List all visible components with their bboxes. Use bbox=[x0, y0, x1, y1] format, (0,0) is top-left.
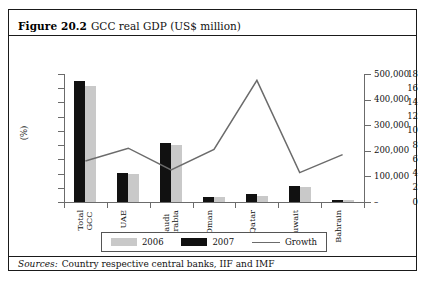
x-tick-mark bbox=[321, 202, 322, 208]
legend-swatch-2006-icon bbox=[111, 238, 137, 246]
source-label: Sources: bbox=[18, 259, 58, 269]
left-tick-mark bbox=[58, 74, 65, 75]
left-tick-mark bbox=[58, 131, 65, 132]
category-label-total-gcc: Total GCC bbox=[76, 210, 94, 231]
left-tick-mark bbox=[58, 159, 65, 160]
bar-2007-qatar bbox=[246, 194, 257, 202]
right-tick-label: 300,000 bbox=[374, 120, 409, 130]
source-value: Country respective central banks, IIF an… bbox=[62, 259, 275, 269]
left-tick-mark bbox=[58, 102, 65, 103]
right-tick-label: 500,000 bbox=[374, 69, 409, 79]
chart-legend: 2006 2007 Growth bbox=[101, 232, 327, 252]
figure-number: Figure 20.2 bbox=[18, 20, 87, 32]
legend-label-2006: 2006 bbox=[142, 237, 164, 247]
x-tick-mark bbox=[235, 202, 236, 208]
x-tick-mark bbox=[278, 202, 279, 208]
right-tick-mark bbox=[364, 202, 371, 203]
left-axis-title: (%) bbox=[19, 126, 29, 141]
x-tick-mark bbox=[193, 202, 194, 208]
legend-item-2006: 2006 bbox=[111, 237, 164, 247]
source-note: Sources:Country respective central banks… bbox=[18, 259, 275, 269]
x-tick-mark bbox=[364, 202, 365, 208]
bar-2006-bahrain bbox=[343, 200, 354, 202]
bar-2007-kuwait bbox=[289, 186, 300, 202]
chart-plot-area: (%) 024681012141618 –100,000200,000300,0… bbox=[9, 36, 418, 241]
legend-label-2007: 2007 bbox=[212, 237, 234, 247]
bar-2006-oman bbox=[214, 197, 225, 202]
left-tick-mark bbox=[58, 145, 65, 146]
left-tick-label: 16 bbox=[374, 83, 418, 93]
category-label-uae: UAE bbox=[119, 210, 128, 229]
x-tick-mark bbox=[150, 202, 151, 208]
legend-swatch-growth-icon bbox=[252, 242, 280, 243]
right-tick-mark bbox=[364, 176, 371, 177]
right-axis-line bbox=[364, 74, 365, 203]
category-label-qatar: Qatar bbox=[248, 210, 257, 234]
bar-2007-uae bbox=[117, 173, 128, 202]
left-tick-label: 2 bbox=[374, 182, 418, 192]
bottom-axis-line bbox=[64, 202, 365, 203]
bar-2007-total-gcc bbox=[74, 81, 85, 202]
x-tick-mark bbox=[64, 202, 65, 208]
left-tick-label: 6 bbox=[374, 154, 418, 164]
figure-title-row: Figure 20.2GCC real GDP (US$ million) bbox=[9, 10, 416, 35]
bar-2006-kuwait bbox=[300, 187, 311, 202]
left-axis-line bbox=[64, 74, 65, 203]
source-divider bbox=[9, 256, 416, 257]
right-tick-mark bbox=[364, 125, 371, 126]
bar-2006-saudi-arabia bbox=[171, 145, 182, 202]
right-tick-mark bbox=[364, 74, 371, 75]
x-tick-mark bbox=[107, 202, 108, 208]
bar-2007-oman bbox=[203, 197, 214, 202]
figure-container: Figure 20.2GCC real GDP (US$ million) (%… bbox=[8, 9, 417, 271]
legend-label-growth: Growth bbox=[285, 237, 317, 247]
right-tick-label: – bbox=[374, 197, 378, 207]
legend-item-2007: 2007 bbox=[181, 237, 234, 247]
bar-2006-uae bbox=[128, 174, 139, 202]
right-tick-label: 400,000 bbox=[374, 94, 409, 104]
left-tick-label: 0 bbox=[374, 197, 418, 207]
legend-swatch-2007-icon bbox=[181, 238, 207, 246]
right-tick-mark bbox=[364, 151, 371, 152]
bar-2007-saudi-arabia bbox=[160, 143, 171, 202]
left-tick-mark bbox=[58, 117, 65, 118]
bar-2007-bahrain bbox=[332, 200, 343, 202]
bar-2006-total-gcc bbox=[85, 86, 96, 202]
left-tick-mark bbox=[58, 188, 65, 189]
left-tick-mark bbox=[58, 88, 65, 89]
category-label-bahrain: Bahrain bbox=[334, 210, 343, 243]
page-title: GCC real GDP (US$ million) bbox=[91, 20, 241, 32]
right-tick-label: 100,000 bbox=[374, 171, 409, 181]
legend-item-growth: Growth bbox=[252, 237, 317, 247]
right-tick-label: 200,000 bbox=[374, 145, 409, 155]
bar-2006-qatar bbox=[257, 196, 268, 202]
right-tick-mark bbox=[364, 100, 371, 101]
category-label-oman: Oman bbox=[205, 210, 214, 235]
left-tick-mark bbox=[58, 174, 65, 175]
